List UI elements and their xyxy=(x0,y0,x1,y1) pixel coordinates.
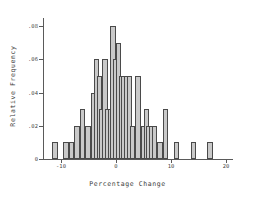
histogram-bar xyxy=(207,142,213,159)
x-axis-tick-label: 0 xyxy=(101,163,131,169)
x-axis-tick-label: -10 xyxy=(46,163,76,169)
plot-area xyxy=(44,18,232,159)
histogram-figure: 0.02.04.06.08 -1001020 Percentage Change… xyxy=(0,0,255,203)
histogram-bar xyxy=(174,142,180,159)
y-axis-line xyxy=(43,18,44,159)
histogram-bar xyxy=(191,142,197,159)
histogram-bar xyxy=(163,109,169,159)
y-axis-tick xyxy=(39,26,44,27)
y-axis-tick xyxy=(39,93,44,94)
y-axis-tick-label: .04 xyxy=(28,90,38,96)
y-axis-tick-label: .02 xyxy=(28,123,38,129)
x-axis-tick-label: 20 xyxy=(211,163,241,169)
y-axis-tick-label: 0 xyxy=(35,156,38,162)
y-axis-tick-label: .06 xyxy=(28,56,38,62)
histogram-bar xyxy=(52,142,58,159)
y-axis-tick xyxy=(39,126,44,127)
x-axis-title: Percentage Change xyxy=(0,180,255,188)
y-axis-tick xyxy=(39,159,44,160)
x-axis-line xyxy=(43,159,233,160)
y-axis-tick xyxy=(39,59,44,60)
x-axis-tick-label: 10 xyxy=(156,163,186,169)
bar-series xyxy=(44,18,232,159)
y-axis-title: Relative Frequency xyxy=(9,26,17,146)
y-axis-tick-label: .08 xyxy=(28,23,38,29)
